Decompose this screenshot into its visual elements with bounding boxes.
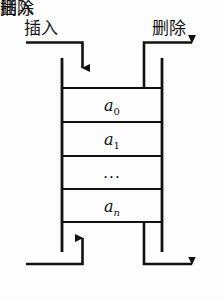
cell-item-1: a1 xyxy=(62,132,162,151)
cell-item-n-base: a xyxy=(104,197,114,216)
delete-front-arrow xyxy=(144,43,192,88)
cell-item-ellipsis-text: ... xyxy=(103,164,120,182)
insert-front-arrow xyxy=(26,43,83,69)
delete-rear-arrow xyxy=(144,222,192,264)
cell-item-1-subscript: 1 xyxy=(114,140,120,151)
insert-rear-arrow xyxy=(26,238,83,264)
cell-item-n-subscript: n xyxy=(114,207,120,218)
cell-item-n: an xyxy=(62,199,162,218)
deque-diagram: 插入 删除 插入 删除 xyxy=(0,0,224,301)
cell-item-0-subscript: 0 xyxy=(114,106,120,117)
cell-item-0: a0 xyxy=(62,98,162,117)
cell-item-ellipsis: ... xyxy=(62,166,162,181)
cell-item-0-base: a xyxy=(104,96,114,115)
cell-item-1-base: a xyxy=(104,130,114,149)
